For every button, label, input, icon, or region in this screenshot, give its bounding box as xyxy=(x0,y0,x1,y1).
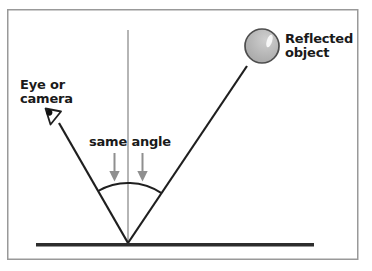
eye-label: Eye or camera xyxy=(20,78,73,105)
eye-icon-pupil xyxy=(46,110,52,116)
eye-label-line2: camera xyxy=(20,92,73,106)
reflected-object-sphere xyxy=(245,29,279,63)
same-angle-label: same angle xyxy=(80,135,180,149)
reflected-object-label: Reflected object xyxy=(285,32,353,59)
eye-label-line1: Eye or xyxy=(20,78,73,92)
reflection-diagram: Eye or camera Reflected object same angl… xyxy=(0,0,372,271)
reflected-object-label-line1: Reflected xyxy=(285,32,353,46)
reflected-object-label-line2: object xyxy=(285,46,353,60)
sphere-body xyxy=(245,29,279,63)
